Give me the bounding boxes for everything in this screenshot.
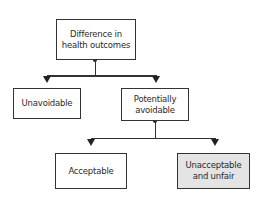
node-label: Unavoidable (22, 98, 73, 109)
node-label: Difference in health outcomes (62, 29, 130, 51)
arrow-to-unavoidable (43, 76, 51, 83)
node-label: Potentially avoidable (134, 94, 176, 116)
node-label: Unacceptable and unfair (186, 160, 242, 182)
arrow-to-unacceptable (211, 139, 219, 146)
node-difference-in-health-outcomes: Difference in health outcomes (56, 19, 136, 60)
node-potentially-avoidable: Potentially avoidable (121, 88, 189, 121)
node-unacceptable-and-unfair: Unacceptable and unfair (177, 153, 250, 189)
arrow-to-potentially-avoidable (152, 76, 160, 83)
node-acceptable: Acceptable (55, 153, 127, 189)
node-unavoidable: Unavoidable (13, 88, 81, 119)
node-label: Acceptable (68, 166, 113, 177)
arrow-to-acceptable (87, 139, 95, 146)
avoidable-stem-line (155, 121, 157, 138)
root-branch-line (47, 75, 157, 77)
avoidable-branch-line (91, 138, 216, 140)
root-stem-line (95, 60, 97, 76)
